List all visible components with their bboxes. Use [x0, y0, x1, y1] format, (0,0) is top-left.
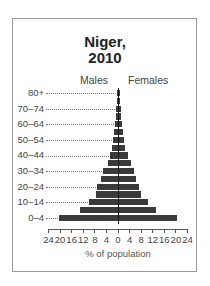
age-group-label: 0–4 [0, 213, 44, 223]
x-tick-label: 16 [66, 234, 77, 245]
x-tick [83, 229, 84, 233]
x-tick-label: 20 [171, 234, 182, 245]
x-tick [141, 229, 142, 233]
x-tick [106, 229, 107, 233]
chart-title-line-1: Niger, [0, 34, 210, 50]
bar-females [119, 98, 120, 104]
x-tick [152, 229, 153, 233]
bar-males [110, 152, 118, 158]
age-group-label: 80+ [0, 88, 44, 98]
bar-males [96, 191, 118, 197]
bar-females [119, 184, 139, 190]
center-axis-line [118, 88, 119, 224]
age-group-label: 20–24 [0, 182, 44, 192]
bar-males [108, 160, 118, 166]
x-tick [164, 229, 165, 233]
x-tick [71, 229, 72, 233]
x-tick-label: 4 [127, 234, 132, 245]
bar-females [119, 137, 124, 143]
x-tick-label: 24 [182, 234, 193, 245]
chart-title-line-2: 2010 [0, 50, 210, 66]
age-group-label: 40–44 [0, 150, 44, 160]
bar-females [119, 191, 141, 197]
x-tick-label: 12 [147, 234, 158, 245]
age-group-label: 60–64 [0, 119, 44, 129]
age-leader-line [46, 156, 109, 157]
bar-females [119, 207, 156, 213]
age-group-label: 30–34 [0, 166, 44, 176]
legend-females: Females [128, 74, 168, 86]
bar-males [103, 168, 118, 174]
x-tick [129, 229, 130, 233]
age-leader-line [46, 93, 116, 94]
bar-females [119, 168, 134, 174]
age-leader-line [46, 202, 88, 203]
age-leader-line [46, 187, 96, 188]
x-axis-label: % of population [0, 248, 210, 259]
bar-females [119, 90, 120, 96]
x-tick-label: 4 [104, 234, 109, 245]
age-leader-line [46, 124, 114, 125]
x-tick [187, 229, 188, 233]
x-tick [48, 229, 49, 233]
bar-females [119, 215, 177, 221]
bar-males [89, 199, 118, 205]
x-tick-label: 12 [78, 234, 89, 245]
bar-males [101, 176, 118, 182]
x-tick-label: 8 [139, 234, 144, 245]
bar-males [97, 184, 118, 190]
bar-females [119, 199, 148, 205]
bar-females [119, 113, 121, 119]
bar-females [119, 106, 121, 112]
x-tick-label: 0 [115, 234, 120, 245]
x-tick [175, 229, 176, 233]
bar-females [119, 176, 136, 182]
x-tick-label: 20 [55, 234, 66, 245]
bar-males [59, 215, 118, 221]
age-group-label: 50–54 [0, 135, 44, 145]
x-tick-label: 24 [43, 234, 54, 245]
bar-females [119, 121, 122, 127]
x-tick-label: 8 [92, 234, 97, 245]
bar-females [119, 145, 125, 151]
x-tick [118, 229, 119, 233]
bar-males [80, 207, 118, 213]
age-leader-line [46, 218, 58, 219]
legend-males: Males [80, 74, 108, 86]
age-leader-line [46, 140, 112, 141]
x-tick [60, 229, 61, 233]
x-tick-label: 16 [159, 234, 170, 245]
x-tick [94, 229, 95, 233]
bar-females [119, 129, 123, 135]
bar-females [119, 160, 131, 166]
age-group-label: 70–74 [0, 104, 44, 114]
age-group-label: 10–14 [0, 197, 44, 207]
age-leader-line [46, 109, 115, 110]
age-leader-line [46, 171, 102, 172]
bar-females [119, 152, 128, 158]
